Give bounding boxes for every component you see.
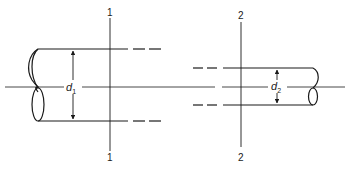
- pipe-1: [29, 49, 161, 121]
- d2-label: d2: [271, 80, 281, 94]
- d1-label: d1: [66, 81, 76, 95]
- section-1-label-top: 1: [107, 7, 113, 18]
- section-1-label-bottom: 1: [107, 152, 113, 163]
- pipe-2: [193, 68, 318, 105]
- section-2-label-bottom: 2: [238, 152, 244, 163]
- pipe-2-break-symbol: [313, 68, 318, 88]
- section-2-label-top: 2: [238, 10, 244, 21]
- pipe-diameter-diagram: d1 1 1 d2 2: [0, 0, 351, 174]
